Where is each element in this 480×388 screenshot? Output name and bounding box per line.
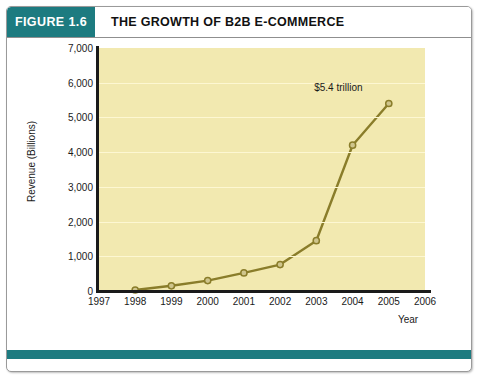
- figure-caption: [17, 363, 463, 372]
- y-axis-line: [96, 46, 99, 293]
- data-point-marker: [205, 278, 211, 284]
- gridline: [99, 222, 425, 223]
- data-point-marker: [386, 100, 392, 106]
- data-point-marker: [168, 283, 174, 289]
- figure-title: THE GROWTH OF B2B E-COMMERCE: [95, 7, 471, 37]
- y-axis-tick-label: 6,000: [51, 77, 93, 88]
- y-axis-tick-label: 1,000: [51, 251, 93, 262]
- gridline: [99, 117, 425, 118]
- x-axis-tick-label: 2006: [402, 296, 448, 307]
- gridline: [99, 83, 425, 84]
- y-axis-tick-label: 4,000: [51, 147, 93, 158]
- gridline: [99, 152, 425, 153]
- revenue-line-series: [99, 48, 425, 291]
- y-axis-tick-label: 0: [51, 286, 93, 297]
- caption-divider-rule: [7, 350, 471, 359]
- x-axis-title: Year: [383, 314, 433, 325]
- figure-container: FIGURE 1.6 THE GROWTH OF B2B E-COMMERCE …: [6, 6, 472, 372]
- figure-number-badge: FIGURE 1.6: [7, 7, 95, 37]
- y-axis-title: Revenue (Billions): [26, 82, 37, 242]
- chart-canvas: Revenue (Billions) 01,0002,0003,0004,000…: [7, 38, 471, 342]
- plot-area: [99, 48, 425, 291]
- x-axis-line: [96, 290, 431, 293]
- data-point-marker: [277, 262, 283, 268]
- data-annotation-label: $5.4 trillion: [314, 82, 362, 93]
- y-axis-tick-label: 2,000: [51, 216, 93, 227]
- figure-header: FIGURE 1.6 THE GROWTH OF B2B E-COMMERCE: [7, 7, 471, 38]
- data-point-marker: [313, 238, 319, 244]
- series-line: [135, 104, 389, 291]
- y-axis-tick-label: 5,000: [51, 112, 93, 123]
- y-axis-tick-label: 3,000: [51, 181, 93, 192]
- y-axis-tick-label: 7,000: [51, 43, 93, 54]
- data-point-marker: [241, 270, 247, 276]
- data-point-marker: [350, 142, 356, 148]
- gridline: [99, 256, 425, 257]
- gridline: [99, 187, 425, 188]
